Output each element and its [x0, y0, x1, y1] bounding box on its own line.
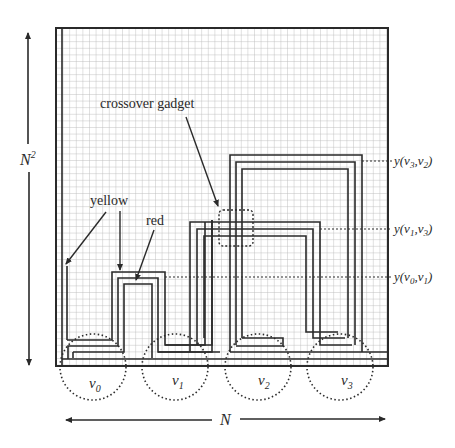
vertex-label-v1: v1	[172, 372, 184, 391]
annotation-red: red	[146, 213, 164, 228]
vertex-label-v0: v0	[89, 375, 101, 394]
vertex-label-v2: v2	[258, 372, 270, 391]
axis-vertical-label: N2	[19, 149, 36, 168]
grid-embedding-diagram: v0 v1 v2 v3 y(v3,v2) y(v1,v3) y(v0,v1) c…	[0, 0, 455, 448]
row-label-v0-v1: y(v0,v1)	[392, 269, 432, 286]
annotation-crossover-gadget: crossover gadget	[100, 96, 195, 111]
axis-horizontal-label: N	[219, 411, 232, 428]
row-label-v3-v2: y(v3,v2)	[392, 153, 432, 170]
row-label-v1-v3: y(v1,v3)	[392, 221, 432, 238]
vertex-label-v3: v3	[341, 372, 353, 391]
annotation-yellow: yellow	[90, 193, 129, 208]
